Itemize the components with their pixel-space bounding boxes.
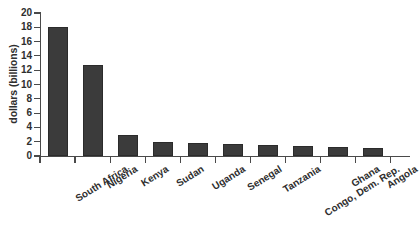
x-axis-tick: [390, 157, 391, 163]
y-axis-tick-label: 10: [10, 80, 32, 90]
y-axis-tick-label: 6: [10, 108, 32, 118]
x-axis-tick: [250, 157, 251, 163]
bar: [153, 142, 173, 156]
x-axis-tick: [145, 157, 146, 163]
y-axis-tick-label: 20: [10, 8, 32, 18]
x-axis-tick: [39, 157, 40, 163]
y-axis-tick-label: 2: [10, 137, 32, 147]
y-axis-tick-label: 0: [10, 151, 32, 161]
y-axis-tick: [34, 84, 40, 85]
bar: [48, 27, 68, 156]
bar: [223, 144, 243, 156]
y-axis-tick-label: 8: [10, 94, 32, 104]
bar: [188, 143, 208, 156]
x-axis-tick: [285, 157, 286, 163]
y-axis-tick: [34, 41, 40, 42]
y-axis-tick: [34, 127, 40, 128]
y-axis-tick: [34, 27, 40, 28]
bar: [83, 65, 103, 156]
y-axis-tick: [34, 55, 40, 56]
y-axis-tick: [34, 113, 40, 114]
y-axis-tick: [34, 70, 40, 71]
x-axis-tick: [180, 157, 181, 163]
x-axis-category-label: Kenya: [139, 164, 170, 188]
bar: [293, 146, 313, 156]
x-axis-category-label: Tanzania: [281, 164, 322, 195]
y-axis-tick-label: 12: [10, 65, 32, 75]
y-axis-tick-label: 14: [10, 51, 32, 61]
y-axis-tick: [34, 141, 40, 142]
y-axis-tick-label: 18: [10, 22, 32, 32]
y-axis-tick-label: 16: [10, 37, 32, 47]
bar: [363, 148, 383, 156]
x-axis-tick: [215, 157, 216, 163]
y-axis-tick: [34, 98, 40, 99]
x-axis-category-label: Senegal: [246, 164, 284, 193]
x-axis-tick: [320, 157, 321, 163]
bar: [258, 145, 278, 156]
x-axis-tick: [110, 157, 111, 163]
y-axis-line: [40, 12, 41, 157]
x-axis-tick: [355, 157, 356, 163]
x-axis-category-label: Uganda: [210, 164, 246, 192]
x-axis-tick: [74, 157, 75, 163]
x-axis-category-label: Sudan: [174, 164, 205, 189]
y-axis-tick-label: 4: [10, 122, 32, 132]
bar: [328, 147, 348, 156]
bar: [118, 135, 138, 156]
y-axis-tick: [34, 12, 40, 13]
